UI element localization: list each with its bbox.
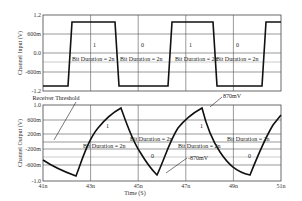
peak-label: 870mV [223,93,242,99]
top-ytick: 600m [27,31,41,37]
chart-canvas: 1.2 600m 0.0 -600m -1.2 Channel Input (V… [0,0,302,201]
bottom-ytick: 600m [27,117,41,123]
top-bit-duration: Bit Duration = 2n [175,56,218,62]
xlabel: Time (S) [124,190,145,197]
bottom-ytick: 1.0 [34,102,42,108]
bottom-ytick: -200m [25,146,41,152]
xtick: 41n [39,183,48,189]
top-bit-label: 0 [141,42,144,48]
xtick: 47n [181,183,190,189]
top-ytick: -600m [25,69,41,75]
bottom-ytick: -600m [25,162,41,168]
top-ytick: 0.0 [34,50,42,56]
top-bit-duration: Bit Duration = 2n [120,56,163,62]
xtick: 49n [229,183,238,189]
channel-input-trace [43,22,281,86]
bottom-plot: 1.0 600m 200m -200m -600m -1.0 Channel O… [17,93,286,197]
top-bit-label: 1 [189,42,192,48]
top-ytick: -1.2 [32,88,42,94]
bottom-ylabel: Channel Output (V) [17,119,24,167]
top-ytick: 1.2 [34,12,42,18]
bottom-bit-duration: Bit Duration = 2n [178,143,221,149]
bottom-bit-duration: Bit Duration = 2n [227,136,270,142]
top-ylabel: Channel Input (V) [17,31,24,75]
bottom-bit-label: 0 [151,153,154,159]
bottom-bit-label: 1 [106,123,109,129]
receiver-threshold-label: Receiver Threshold [32,95,79,101]
bottom-bit-label: 0 [248,153,251,159]
top-bit-duration: Bit Duration = 2n [216,56,259,62]
trough-label: -870mV [188,155,209,161]
top-bit-label: 1 [93,42,96,48]
bottom-ytick: 200m [27,131,41,137]
xtick: 51n [277,183,286,189]
bottom-bit-label: 1 [200,123,203,129]
bottom-bit-duration: Bit Duration = 2n [83,143,126,149]
top-bit-label: 0 [236,42,239,48]
xtick: 43n [86,183,95,189]
top-plot: 1.2 600m 0.0 -600m -1.2 Channel Input (V… [17,12,281,94]
top-bit-duration: Bit Duration = 2n [72,56,115,62]
bottom-bit-duration: Bit Duration = 2n [130,136,173,142]
xtick: 45n [134,183,143,189]
